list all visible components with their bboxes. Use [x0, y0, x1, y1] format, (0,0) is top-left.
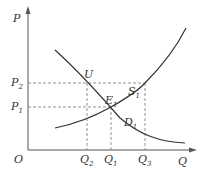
demand-curve	[55, 50, 185, 143]
point-e1-label: E1	[104, 94, 118, 109]
supply-curve-label: S1	[128, 85, 140, 100]
q1-label: Q1	[104, 153, 118, 168]
axes	[26, 6, 198, 153]
y-axis-label: P	[12, 12, 21, 25]
y-axis-arrow-icon	[26, 6, 31, 14]
supply-demand-diagram: P Q O P2 P1 Q2 Q1 Q3 U E1 S1 D1	[0, 0, 209, 174]
supply-curve	[55, 28, 186, 128]
x-axis-arrow-icon	[189, 148, 197, 153]
q3-label: Q3	[138, 153, 152, 168]
x-axis-label: Q	[178, 155, 187, 168]
q2-label: Q2	[80, 153, 94, 168]
p2-label: P2	[10, 76, 23, 91]
p1-label: P1	[10, 100, 23, 115]
point-u-label: U	[84, 68, 94, 81]
origin-label: O	[14, 153, 23, 166]
demand-curve-label: D1	[123, 116, 137, 131]
